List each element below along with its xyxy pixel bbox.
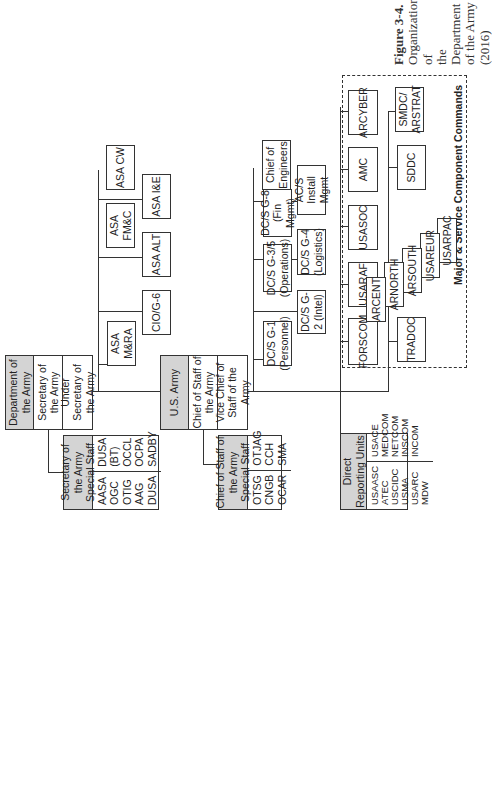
dcs-g2-box: DC/S G-2 (Intel): [297, 290, 326, 334]
acs-install-mgmt-box: AC/S Install Mgmt: [297, 165, 326, 215]
staff-item: OCCL: [121, 431, 133, 467]
dru-col-1: USAASC ATEC USCIDC USMA USARC MDW: [367, 462, 433, 509]
connector: [253, 311, 297, 312]
staff-item: DUSA: [146, 476, 158, 505]
vice-chief-of-staff-army: Vice Chief of Staff of the Army: [218, 356, 247, 429]
chief-of-engineers-box: Chief of Engineers: [262, 140, 291, 190]
csa-staff-header: Chief of Staff of the Army Special Staff: [219, 436, 248, 509]
dcs-g1-box: DC/S G-1 (Personnel): [263, 321, 292, 366]
connector: [248, 391, 388, 392]
connector: [388, 112, 389, 392]
staff-item: CNGB: [263, 475, 275, 505]
connector: [340, 111, 348, 112]
usarpac-box: USARPAC: [437, 218, 457, 263]
sec-army-special-staff: Secretary of the Army Special Staff AASA…: [63, 435, 159, 510]
staff-item: AAG: [133, 476, 145, 505]
sddc-box: SDDC: [397, 145, 426, 190]
connector: [253, 359, 263, 360]
sec-staff-header: Secretary of the Army Special Staff: [64, 436, 93, 509]
asa-alt-box: ASA ALT: [142, 232, 171, 277]
direct-reporting-units: Direct Reporting Units USAASC ATEC USCID…: [340, 433, 408, 510]
csa-staff-col-2: OTJAG CCH SMA: [248, 427, 291, 471]
csa-staff-col-1: OTSG CNGB OCAR: [248, 471, 291, 509]
staff-item: DUSA: [96, 431, 108, 467]
usasoc-box: USASOC: [348, 205, 378, 250]
staff-item: OGC: [108, 476, 120, 505]
connector: [340, 169, 348, 170]
figure-caption: Figure 3-4. Organization of the Departme…: [392, 0, 492, 65]
asa-cw-box: ASA CW: [106, 145, 135, 190]
asa-fmc-box: ASA FM&C: [106, 203, 135, 248]
dcs-g4-box: DC/S G-4 (Logistics): [297, 229, 326, 275]
dcs-g8-box: DC/S G-8 (Fin Mgmt): [263, 189, 292, 237]
cio-g6-box: CIO/G-6: [142, 290, 171, 335]
sec-staff-col-1: AASA OGC OTIG AAG DUSA: [93, 472, 161, 509]
caption-title: Figure 3-4.: [392, 0, 406, 65]
arnorth-box: ARNORTH: [384, 262, 404, 307]
caption-line: the Department: [435, 0, 464, 65]
forscom-box: FORSCOM: [348, 318, 378, 365]
connector: [340, 226, 348, 227]
tradoc-box: TRADOC: [397, 317, 426, 362]
connector: [98, 170, 99, 392]
caption-line: Organization of: [406, 0, 435, 65]
connector: [98, 257, 142, 258]
connector: [93, 391, 160, 392]
staff-item: AASA: [96, 476, 108, 505]
dru-header: Direct Reporting Units: [341, 434, 367, 509]
staff-item: OCPA: [133, 431, 145, 467]
dru-col-2: USACE MEDCOM NETCOM INSCOM INCOM: [367, 410, 433, 462]
staff-item: CCH: [263, 431, 275, 466]
staff-item: OTIG: [121, 476, 133, 505]
dcs-g35-box: DC/S G-3/5 (Operations): [263, 244, 292, 292]
connector: [98, 311, 142, 312]
asa-ie-box: ASA I&E: [142, 174, 171, 219]
staff-item: OTJAG: [251, 431, 263, 466]
arsouth-box: ARSOUTH: [402, 248, 422, 293]
staff-item: (BT): [108, 431, 120, 467]
staff-item: SMA: [276, 431, 288, 466]
connector: [98, 364, 107, 365]
smdc-arstrat-box: SMDC/ ARSTRAT: [395, 87, 424, 132]
department-of-army-block: Department of the Army Secretary of the …: [5, 355, 93, 430]
us-army-block: U.S. Army Chief of Staff of the Army Vic…: [160, 355, 248, 430]
us-army-header: U.S. Army: [161, 356, 189, 429]
dru-item: INCOM: [410, 414, 420, 457]
under-secretary-of-army: Under Secretary of the Army: [63, 356, 92, 429]
connector: [340, 341, 348, 342]
connector: [340, 107, 341, 392]
amc-box: AMC: [348, 147, 378, 192]
connector: [340, 284, 348, 285]
arcent-box: ARCENT: [366, 277, 386, 322]
connector: [203, 430, 204, 465]
staff-item: OCAR: [276, 475, 288, 505]
connector: [98, 199, 142, 200]
sec-staff-col-2: DUSA (BT) OCCL OCPA SADBY: [93, 427, 161, 472]
asa-mra-box: ASA M&RA: [107, 321, 136, 366]
usareur-box: USAREUR: [420, 233, 440, 278]
csa-special-staff: Chief of Staff of the Army Special Staff…: [218, 435, 282, 510]
department-header: Department of the Army: [6, 356, 34, 429]
dru-item: MDW: [420, 466, 430, 505]
arcyber-box: ARCYBER: [348, 90, 378, 135]
staff-item: SADBY: [146, 431, 158, 467]
caption-line: of the Army (2016): [463, 0, 492, 65]
staff-item: OTSG: [251, 475, 263, 505]
connector: [48, 430, 49, 473]
